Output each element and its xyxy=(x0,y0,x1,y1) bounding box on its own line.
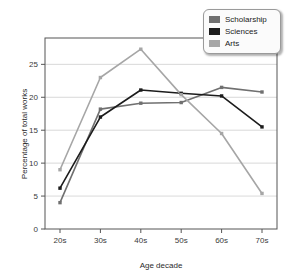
y-axis-ticks xyxy=(41,64,45,229)
y-tick-label: 0 xyxy=(34,225,39,234)
y-axis-title: Percentage of total works xyxy=(20,89,29,179)
plot-frame xyxy=(45,38,277,229)
legend-item-sciences[interactable]: Sciences xyxy=(209,26,274,37)
data-point-scholarship-20s xyxy=(58,201,61,204)
series-lines xyxy=(60,49,262,202)
y-tick-label: 25 xyxy=(29,60,38,69)
data-point-arts-60s xyxy=(220,132,223,135)
data-point-scholarship-60s xyxy=(220,86,223,89)
legend: Scholarship Sciences Arts xyxy=(203,9,281,54)
data-point-arts-40s xyxy=(139,47,142,50)
series-line-arts xyxy=(60,49,262,193)
data-point-arts-50s xyxy=(180,93,183,96)
x-axis-title: Age decade xyxy=(140,261,183,270)
y-tick-label: 5 xyxy=(34,192,39,201)
data-point-sciences-60s xyxy=(220,94,223,97)
legend-swatch-scholarship xyxy=(209,16,220,23)
legend-label-scholarship: Scholarship xyxy=(225,15,267,24)
data-point-sciences-40s xyxy=(139,88,142,91)
data-point-sciences-30s xyxy=(99,115,102,118)
legend-swatch-sciences xyxy=(209,28,220,35)
x-tick-label: 60s xyxy=(215,236,228,245)
legend-label-arts: Arts xyxy=(225,39,239,48)
x-tick-label: 70s xyxy=(256,236,269,245)
data-point-scholarship-40s xyxy=(139,102,142,105)
data-point-scholarship-30s xyxy=(99,107,102,110)
data-point-scholarship-50s xyxy=(180,101,183,104)
x-axis-ticks xyxy=(60,229,262,233)
data-point-scholarship-70s xyxy=(260,90,263,93)
plot-border xyxy=(45,38,277,229)
x-tick-label: 40s xyxy=(134,236,147,245)
data-point-arts-20s xyxy=(58,168,61,171)
y-tick-label: 10 xyxy=(29,159,38,168)
y-axis-tick-labels: 0510152025 xyxy=(29,60,38,234)
legend-swatch-arts xyxy=(209,40,220,47)
y-tick-label: 15 xyxy=(29,126,38,135)
gridlines xyxy=(45,64,277,196)
x-tick-label: 50s xyxy=(175,236,188,245)
legend-item-arts[interactable]: Arts xyxy=(209,38,274,49)
y-tick-label: 20 xyxy=(29,93,38,102)
series-line-sciences xyxy=(60,90,262,188)
x-tick-label: 20s xyxy=(54,236,67,245)
data-point-sciences-20s xyxy=(58,186,61,189)
data-point-arts-70s xyxy=(260,192,263,195)
line-chart: 20s30s40s50s60s70s 0510152025 Age decade… xyxy=(0,0,287,276)
legend-item-scholarship[interactable]: Scholarship xyxy=(209,14,274,25)
data-point-arts-30s xyxy=(99,76,102,79)
x-tick-label: 30s xyxy=(94,236,107,245)
x-axis-tick-labels: 20s30s40s50s60s70s xyxy=(54,236,269,245)
legend-label-sciences: Sciences xyxy=(225,27,257,36)
data-point-sciences-70s xyxy=(260,125,263,128)
